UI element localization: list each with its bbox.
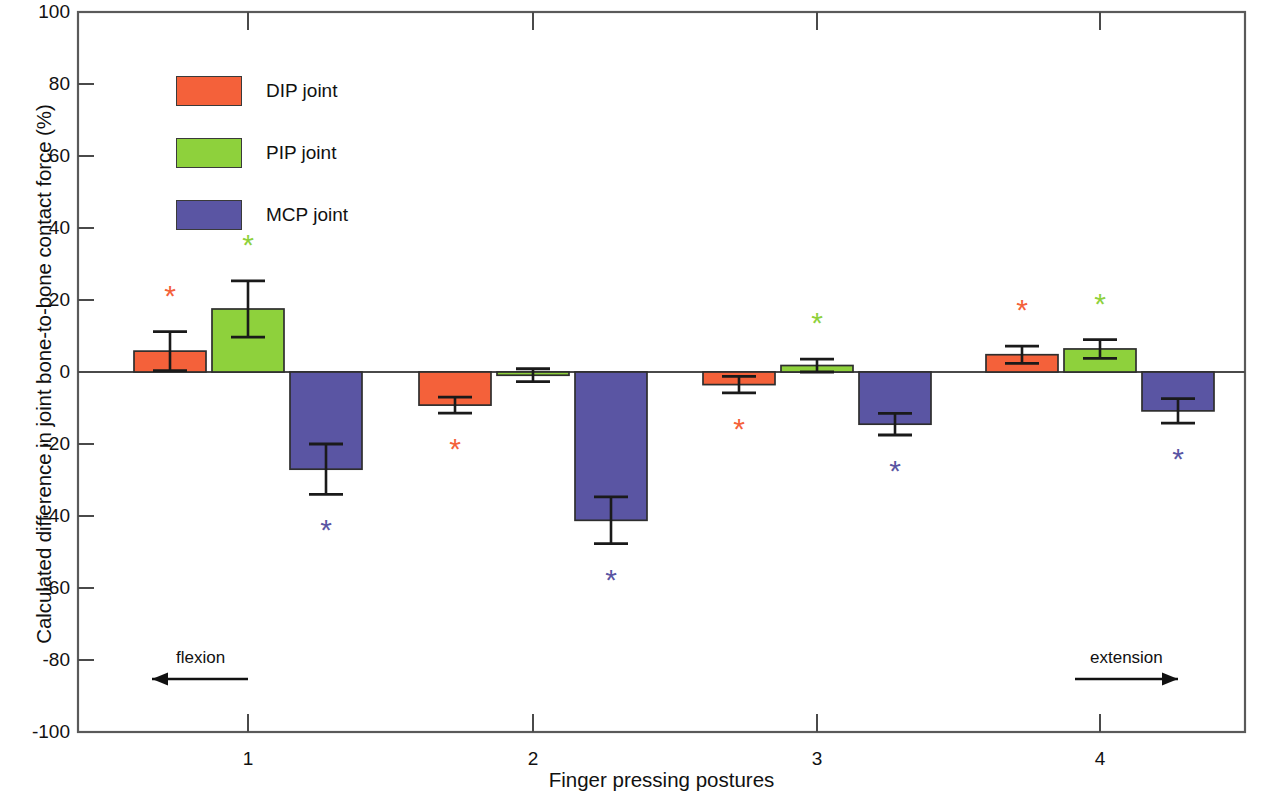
x-axis-tick-label: 2 xyxy=(503,748,563,770)
legend-item-label: MCP joint xyxy=(266,204,348,226)
x-axis-tick-label: 4 xyxy=(1070,748,1130,770)
legend-color-swatch xyxy=(176,200,242,230)
x-axis-title: Finger pressing postures xyxy=(78,768,1245,792)
legend-color-swatch xyxy=(176,76,242,106)
x-axis-tick-label: 3 xyxy=(787,748,847,770)
chart-figure: Calculated difference in joint bone-to-b… xyxy=(0,0,1267,802)
extension-annotation-label: extension xyxy=(1090,648,1163,668)
x-axis-tick-labels: 1234 xyxy=(0,0,1267,802)
flexion-annotation-label: flexion xyxy=(176,648,225,668)
legend-item-label: DIP joint xyxy=(266,80,337,102)
legend-color-swatch xyxy=(176,138,242,168)
legend-item-label: PIP joint xyxy=(266,142,336,164)
x-axis-tick-label: 1 xyxy=(218,748,278,770)
